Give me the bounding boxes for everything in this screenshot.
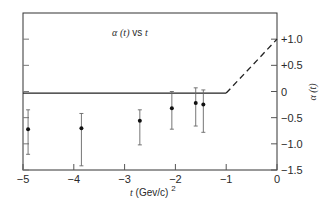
y-tick-label: +0.5	[281, 59, 303, 71]
data-point	[138, 119, 142, 123]
x-tick-label: −1	[220, 173, 233, 185]
plot-frame	[23, 13, 277, 170]
y-tick-label: −0.5	[281, 112, 303, 124]
data-points	[26, 88, 205, 166]
y-axis-ticks: +1.0+0.50−0.5−1.0−1.5	[23, 33, 303, 176]
data-point	[26, 127, 30, 131]
y-tick-label: −1.0	[281, 138, 303, 150]
y-tick-label: −1.5	[281, 164, 303, 176]
x-tick-label: 0	[274, 173, 280, 185]
y-axis-label: α (t)	[307, 83, 319, 101]
x-tick-label: −5	[17, 173, 30, 185]
chart-title: α (t) vs t	[112, 27, 148, 39]
alpha-vs-t-chart: −5−4−3−2−10 +1.0+0.50−0.5−1.0−1.5 α (t) …	[0, 0, 329, 202]
data-point	[170, 106, 174, 110]
y-tick-label: +1.0	[281, 33, 303, 45]
data-point	[201, 103, 205, 107]
x-axis-ticks: −5−4−3−2−10	[17, 164, 280, 185]
data-point	[194, 101, 198, 105]
y-tick-label: 0	[281, 86, 287, 98]
trajectory-lines	[23, 39, 277, 93]
x-tick-label: −4	[68, 173, 81, 185]
dashed-trajectory-line	[226, 39, 277, 93]
data-point	[79, 126, 83, 130]
x-axis-label: t (Gev/c) 2	[130, 184, 176, 198]
x-tick-label: −3	[118, 173, 131, 185]
